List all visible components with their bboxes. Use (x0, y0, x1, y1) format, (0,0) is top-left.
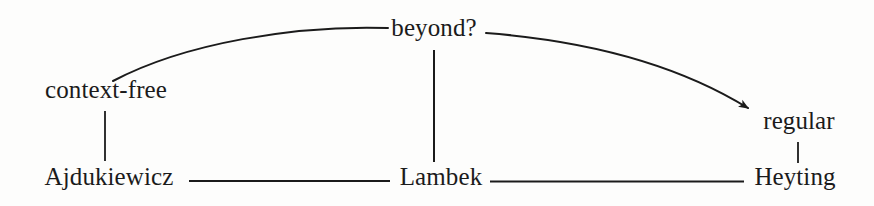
node-heyting: Heyting (754, 164, 835, 189)
node-context-free: context-free (45, 77, 167, 102)
node-regular: regular (763, 108, 835, 133)
edge-context-free-beyond (113, 28, 388, 81)
node-lambek: Lambek (400, 164, 483, 189)
edge-beyond-regular (486, 33, 748, 108)
node-ajdukiewicz: Ajdukiewicz (45, 164, 174, 189)
hierarchy-diagram: beyond? context-free regular Ajdukiewicz… (0, 0, 874, 206)
node-beyond: beyond? (391, 15, 476, 40)
